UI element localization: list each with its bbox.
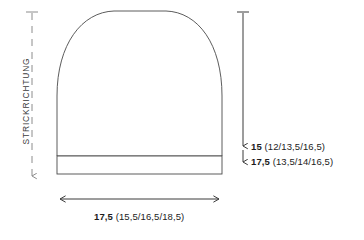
brim-rectangle [57,156,222,174]
width-bottom-variant-values: (15,5/16,5/18,5) [116,211,185,222]
schematic-drawing-canvas [0,0,364,240]
knit-direction-label: STRICKRICHTUNG [21,31,31,171]
height-dimension-group [237,12,249,162]
knitting-schematic-diagram: 15 (12/13,5/16,5) 17,5 (13,5/14/16,5) 17… [0,0,364,240]
height-total-primary-value: 17,5 [251,156,270,167]
hat-crown-shape [57,11,222,156]
height-total-variant-values: (13,5/14/16,5) [273,156,334,167]
height-total-label: 17,5 (13,5/14/16,5) [251,156,333,167]
height-crown-label: 15 (12/13,5/16,5) [251,141,325,152]
height-crown-variant-values: (12/13,5/16,5) [265,141,326,152]
hat-outline [57,11,222,156]
hat-brim-band [57,156,222,174]
height-crown-primary-value: 15 [251,141,262,152]
width-bottom-label: 17,5 (15,5/16,5/18,5) [94,211,184,222]
width-bottom-primary-value: 17,5 [94,211,113,222]
